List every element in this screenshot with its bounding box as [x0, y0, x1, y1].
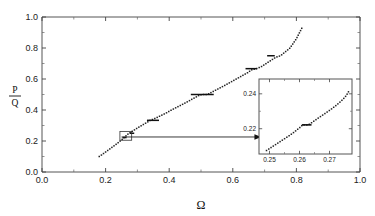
inset-axes-frame [259, 79, 352, 154]
curve-dot [140, 125, 142, 127]
curve-dot [240, 76, 242, 78]
curve-dot [335, 105, 337, 107]
curve-dot [272, 59, 274, 61]
curve-dot [147, 121, 149, 123]
curve-dot [145, 122, 147, 124]
curve-dot [231, 81, 233, 83]
inset-x-tick-label: 0.27 [323, 156, 336, 163]
curve-dot [215, 89, 217, 91]
curve-dot [105, 151, 107, 153]
curve-dot [331, 108, 333, 110]
curve-dot [329, 110, 331, 112]
curve-dot [300, 30, 302, 32]
curve-dot [295, 130, 297, 132]
curve-dot [287, 49, 289, 51]
curve-dot [320, 116, 322, 118]
curve-dot [333, 107, 335, 109]
curve-dot [249, 71, 251, 73]
curve-dot [180, 105, 182, 107]
curve-dot [315, 119, 317, 121]
curve-dot [226, 83, 228, 85]
curve-dot [289, 48, 291, 50]
y-tick-label: 0.4 [25, 105, 38, 115]
curve-dot [270, 147, 272, 149]
curve-dot [284, 138, 286, 140]
curve-dot [173, 108, 175, 110]
curve-dot [322, 114, 324, 116]
curve-dot [275, 144, 277, 146]
y-tick-label: 0.6 [25, 74, 38, 84]
curve-dot [101, 154, 103, 156]
x-axis-title: Ω [197, 198, 206, 212]
curve-dot [219, 87, 221, 89]
x-tick-label: 0.6 [227, 175, 240, 185]
curve-dot [175, 107, 177, 109]
curve-dot [293, 41, 295, 43]
curve-dot [159, 116, 161, 118]
curve-dot [117, 142, 119, 144]
curve-dot [191, 99, 193, 101]
curve-dot [337, 103, 339, 105]
curve-dot [107, 150, 109, 152]
curve-dot [127, 133, 129, 135]
curve-dot [109, 148, 111, 150]
curve-dot [283, 52, 285, 54]
curve-dot [138, 126, 140, 128]
curve-dot [182, 104, 184, 106]
curve-dot [229, 82, 231, 84]
curve-dot [235, 78, 237, 80]
curve-dot [103, 153, 105, 155]
curve-dot [161, 114, 163, 116]
curve-dot [299, 127, 301, 129]
curve-dot [266, 150, 268, 152]
inset-y-tick-label: 0.24 [243, 90, 256, 97]
curve-dot [163, 113, 165, 115]
curve-dot [273, 145, 275, 147]
curve-dot [281, 54, 283, 56]
curve-dot [299, 32, 301, 34]
curve-dot [154, 118, 156, 120]
curve-dot [286, 136, 288, 138]
curve-dot [285, 51, 287, 53]
y-axis-title-numerator: P [12, 85, 17, 95]
curve-dot [274, 57, 276, 59]
curve-dot [247, 72, 249, 74]
curve-dot [291, 45, 293, 47]
curve-dot [270, 60, 272, 62]
curve-dot [166, 112, 168, 114]
curve-dot [311, 122, 313, 124]
y-tick-label: 0.0 [25, 167, 38, 177]
curve-dot [242, 75, 244, 77]
curve-dot [288, 135, 290, 137]
curve-dot [265, 63, 267, 65]
curve-dot [111, 147, 113, 149]
curve-dot [222, 86, 224, 88]
curve-dot [293, 132, 295, 134]
y-axis-title-denominator: Q [12, 98, 19, 108]
curve-dot [186, 101, 188, 103]
curve-dot [279, 55, 281, 57]
curve-dot [277, 142, 279, 144]
curve-dot [233, 80, 235, 82]
curve-dot [313, 120, 315, 122]
curve-dot [263, 64, 265, 66]
inset-x-tick-label: 0.25 [263, 156, 276, 163]
curve-dot [295, 39, 297, 41]
y-tick-label: 1.0 [25, 12, 38, 22]
figure-container: 0.00.20.40.60.81.00.00.20.40.60.81.0 Ω P… [0, 0, 375, 216]
curve-dot [136, 128, 138, 130]
curve-dot [267, 62, 269, 64]
x-tick-label: 0.4 [163, 175, 176, 185]
curve-dot [212, 91, 214, 93]
curve-dot [177, 106, 179, 108]
curve-dot [297, 128, 299, 130]
curve-dot [244, 73, 246, 75]
curve-dot [339, 101, 341, 103]
x-tick-label: 0.2 [99, 175, 112, 185]
curve-dot [291, 133, 293, 135]
curve-dot [282, 139, 284, 141]
y-tick-label: 0.8 [25, 43, 38, 53]
curve-dot [279, 141, 281, 143]
curve-dot [341, 100, 343, 102]
curve-dot [296, 37, 298, 39]
